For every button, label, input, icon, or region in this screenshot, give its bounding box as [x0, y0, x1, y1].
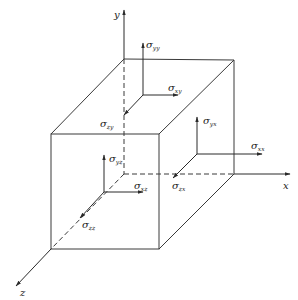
stress-cube-diagram: y x z σyy σxy σzy σyx σxx σyz σxz σzx σz…: [0, 0, 298, 300]
label-sigma-zz: σzz: [82, 219, 96, 231]
label-sigma-yz: σyz: [109, 153, 123, 166]
axes: [16, 10, 290, 286]
label-sigma-zy: σzy: [100, 118, 114, 131]
label-sigma-xy: σxy: [168, 82, 182, 95]
z-axis-label: z: [19, 287, 26, 298]
z-axis: [16, 249, 51, 286]
label-sigma-yy: σyy: [146, 39, 160, 52]
label-sigma-xx: σxx: [251, 140, 265, 152]
top-face-stresses: [124, 43, 178, 115]
x-axis-label: x: [283, 180, 289, 191]
label-sigma-yx: σyx: [203, 115, 217, 128]
label-sigma-zx: σzx: [172, 180, 186, 192]
right-face-stresses: [173, 117, 262, 178]
label-sigma-xz: σxz: [134, 180, 148, 192]
y-axis-label: y: [113, 9, 120, 20]
